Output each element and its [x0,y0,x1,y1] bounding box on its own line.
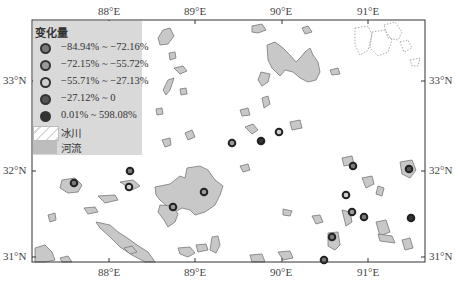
legend-class-5: 0.01% ~ 598.08% [33,109,142,123]
legend-river: 河流 [33,140,142,154]
circle-icon [40,43,51,54]
left-label-31n: 31°N [3,250,26,262]
bottom-label-90e: 90°E [270,266,292,278]
circle-icon [40,60,51,71]
circle-icon [40,111,51,122]
river-swatch-icon [33,141,57,154]
bottom-label-89e: 89°E [184,266,206,278]
left-label-33n: 33°N [3,74,26,86]
top-label-88e: 88°E [98,5,120,17]
right-label-32n: 32°N [429,164,452,176]
glacier-swatch-icon [33,126,59,141]
bottom-label-91e: 91°E [357,266,379,278]
circle-icon [40,94,51,105]
top-label-91e: 91°E [357,5,379,17]
right-label-33n: 33°N [429,74,452,86]
map-legend: 变化量 −84.94% ~ −72.16% −72.15% ~ −55.72% … [33,21,142,155]
legend-class-3: −55.71% ~ −27.13% [33,75,142,89]
legend-class-1: −84.94% ~ −72.16% [33,41,142,55]
legend-class-4: −27.12% ~ 0 [33,92,142,106]
legend-glacier: 冰川 [33,125,142,139]
circle-icon [40,77,51,88]
top-label-90e: 90°E [270,5,292,17]
glacier-layer [355,22,420,66]
legend-class-2: −72.15% ~ −55.72% [33,58,142,72]
legend-title: 变化量 [35,24,68,40]
left-label-32n: 32°N [3,164,26,176]
right-label-31n: 31°N [429,250,452,262]
top-label-89e: 89°E [184,5,206,17]
bottom-label-88e: 88°E [98,266,120,278]
